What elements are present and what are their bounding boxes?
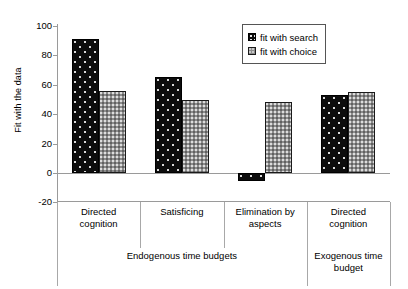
- bar: [348, 92, 375, 173]
- bar: [265, 102, 292, 173]
- y-axis-tick-label: 100: [18, 21, 52, 31]
- legend-item-label: fit with search: [260, 32, 318, 43]
- legend-item: fit with choice: [248, 44, 318, 58]
- category-band-edge: [57, 202, 58, 248]
- bar: [321, 95, 348, 173]
- category-separator: [224, 202, 225, 248]
- bar: [238, 173, 265, 181]
- legend-item-label: fit with choice: [260, 46, 317, 57]
- category-label-line: Directed: [307, 206, 390, 218]
- y-axis-tick-label: 0: [18, 168, 52, 178]
- chart-legend: fit with searchfit with choice: [242, 24, 326, 64]
- group-label-line: Endogenous time budgets: [57, 250, 307, 262]
- category-label-line: cognition: [307, 218, 390, 230]
- category-label-band: DirectedcognitionSatisficingElimination …: [57, 202, 390, 248]
- bar-chart: Fit with the data 100806040200-20 fit wi…: [0, 0, 408, 289]
- bar: [72, 39, 99, 173]
- category-label-line: Directed: [57, 206, 140, 218]
- category-band-edge: [390, 202, 391, 248]
- group-label-line: Exogenous time: [307, 250, 390, 262]
- y-axis-tick-mark: [53, 26, 57, 27]
- category-label: Elimination byaspects: [224, 206, 307, 229]
- category-label-line: Elimination by: [224, 206, 307, 218]
- category-separator: [140, 202, 141, 248]
- category-separator: [307, 202, 308, 248]
- y-axis-tick-label: 20: [18, 139, 52, 149]
- y-axis-tick-label: 60: [18, 80, 52, 90]
- group-separator: [307, 248, 308, 286]
- group-label: Endogenous time budgets: [57, 250, 307, 262]
- y-axis-tick-mark: [53, 55, 57, 56]
- category-label: Satisficing: [140, 206, 223, 218]
- y-axis-tick-mark: [53, 85, 57, 86]
- y-axis-tick-mark: [53, 202, 57, 203]
- y-axis-tick-mark: [53, 173, 57, 174]
- bar: [99, 91, 126, 173]
- y-axis-tick-mark: [53, 144, 57, 145]
- category-label-line: aspects: [224, 218, 307, 230]
- legend-item: fit with search: [248, 30, 318, 44]
- y-axis-tick-label: 40: [18, 109, 52, 119]
- bar: [155, 77, 182, 173]
- group-label-band: Endogenous time budgetsExogenous timebud…: [57, 248, 390, 288]
- group-label: Exogenous timebudget: [307, 250, 390, 273]
- category-label-line: cognition: [57, 218, 140, 230]
- y-axis-tick-labels: 100806040200-20: [18, 0, 52, 289]
- y-axis-tick-label: 80: [18, 50, 52, 60]
- category-label: Directedcognition: [57, 206, 140, 229]
- legend-swatch-search-icon: [248, 33, 256, 41]
- group-label-line: budget: [307, 262, 390, 274]
- category-label-line: Satisficing: [140, 206, 223, 218]
- y-axis-tick-label: -20: [18, 197, 52, 207]
- legend-swatch-choice-icon: [248, 47, 256, 55]
- group-separator: [390, 248, 391, 286]
- category-label: Directedcognition: [307, 206, 390, 229]
- group-separator: [57, 248, 58, 286]
- bar: [182, 100, 209, 173]
- y-axis-tick-mark: [53, 114, 57, 115]
- plot-area: [57, 24, 390, 201]
